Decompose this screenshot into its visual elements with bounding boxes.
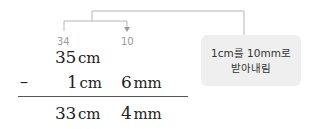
subtraction-rule (18, 96, 188, 97)
subtrahend-cm-value: 1 (67, 72, 78, 92)
difference-cm-value: 33 (55, 103, 76, 123)
annotation-line-2: 받아내림 (231, 61, 271, 76)
minus-operator: – (20, 74, 28, 90)
annotation-line-1: 1cm를 10mm로 (211, 46, 291, 61)
subtrahend-mm-value: 6 (121, 72, 132, 92)
difference-mm: 4mm (121, 105, 161, 122)
minuend-cm-unit: cm (78, 49, 100, 67)
arrow-down-icon (124, 27, 130, 32)
borrow-annotation-box: 1cm를 10mm로 받아내림 (201, 35, 301, 86)
borrow-mark-10: 10 (121, 37, 134, 47)
subtrahend-mm: 6mm (121, 74, 161, 91)
subtrahend-cm-unit: cm (80, 74, 102, 92)
subtrahend-cm: 1cm (67, 74, 102, 91)
borrow-mark-34: 34 (57, 37, 70, 47)
difference-cm-unit: cm (78, 105, 100, 123)
minuend-cm-value: 35 (55, 47, 76, 67)
minuend-row: 35cm (55, 49, 100, 66)
subtrahend-mm-unit: mm (134, 74, 162, 92)
difference-mm-unit: mm (134, 105, 162, 123)
difference-cm: 33cm (55, 105, 100, 122)
difference-mm-value: 4 (121, 103, 132, 123)
